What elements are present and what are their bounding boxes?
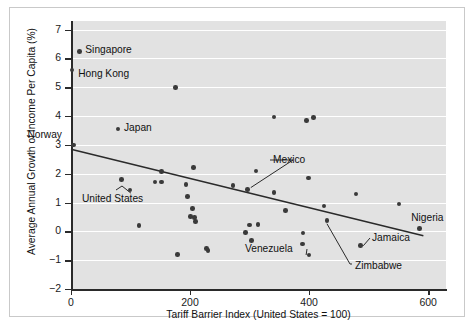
point-label-jamaica: Jamaica <box>372 232 410 243</box>
x-axis-title: Tariff Barrier Index (United States = 10… <box>71 309 446 320</box>
data-point <box>173 85 178 90</box>
data-point <box>256 222 261 227</box>
y-axis-tick <box>65 203 72 204</box>
y-axis-tick <box>65 58 72 59</box>
y-axis-tick-label: 4 <box>39 109 61 121</box>
y-axis-tick <box>65 174 72 175</box>
gridline <box>71 30 446 31</box>
data-point <box>311 115 316 120</box>
data-point <box>191 165 196 170</box>
x-axis-tick-label: 200 <box>170 296 210 308</box>
data-point <box>300 242 305 247</box>
data-point <box>159 180 164 185</box>
x-axis-tick <box>71 289 72 295</box>
y-axis-tick-label: 2 <box>39 167 61 179</box>
data-point <box>243 230 248 235</box>
data-point <box>283 208 288 213</box>
figure-panel: Average Annual Growth of Income Per Capi… <box>9 7 465 317</box>
data-point <box>119 177 124 182</box>
y-axis-title: Average Annual Growth of Income Per Capi… <box>26 17 37 267</box>
data-point <box>306 176 311 181</box>
data-point-mexico <box>245 187 250 192</box>
gridline <box>71 174 446 175</box>
gridline <box>71 145 446 146</box>
x-axis-tick-label: 600 <box>408 296 448 308</box>
data-point-singapore <box>77 49 82 54</box>
point-label-mexico: Mexico <box>273 154 305 165</box>
point-label-singapore: Singapore <box>85 44 131 55</box>
y-axis-tick-label: 6 <box>39 51 61 63</box>
y-axis-tick <box>65 30 72 31</box>
y-axis-tick <box>65 87 72 88</box>
y-axis-line <box>71 21 73 290</box>
point-label-venezuela: Venezuela <box>245 243 293 254</box>
data-point <box>159 169 164 174</box>
point-label-hong-kong: Hong Kong <box>78 68 129 79</box>
point-label-norway: Norway <box>27 129 62 140</box>
data-point <box>175 252 180 257</box>
x-axis-tick <box>190 289 191 295</box>
gridline <box>71 58 446 59</box>
y-axis-tick <box>65 260 72 261</box>
point-label-nigeria: Nigeria <box>411 212 443 223</box>
scatter-chart: Average Annual Growth of Income Per Capi… <box>10 8 466 318</box>
y-axis-tick-label: 0 <box>39 224 61 236</box>
y-axis-tick <box>65 116 72 117</box>
y-axis-tick-label: −2 <box>39 282 61 294</box>
data-point <box>206 248 211 253</box>
gridline <box>71 116 446 117</box>
y-axis-tick-label: −1 <box>39 253 61 265</box>
data-point <box>185 194 190 199</box>
x-axis-tick <box>428 289 429 295</box>
data-point <box>272 190 277 195</box>
x-axis-tick-label: 400 <box>289 296 329 308</box>
y-axis-tick-label: 7 <box>39 23 61 35</box>
point-label-zimbabwe: Zimbabwe <box>355 260 402 271</box>
x-axis-line <box>71 289 447 291</box>
x-axis-tick <box>309 289 310 295</box>
data-point-norway <box>71 143 76 148</box>
y-axis-tick <box>65 231 72 232</box>
y-axis-tick-label: 5 <box>39 80 61 92</box>
data-point <box>247 223 252 228</box>
point-label-united-states: United States <box>82 193 143 204</box>
data-point <box>190 206 195 211</box>
point-label-japan: Japan <box>124 122 152 133</box>
data-point <box>304 118 309 123</box>
data-point-jamaica <box>358 243 363 248</box>
data-point <box>137 223 142 228</box>
data-point <box>193 219 198 224</box>
gridline <box>71 87 446 88</box>
y-axis-tick-label: 1 <box>39 196 61 208</box>
data-point-nigeria <box>417 226 422 231</box>
x-axis-tick-label: 0 <box>51 296 91 308</box>
data-point <box>231 183 236 188</box>
data-point <box>184 182 189 187</box>
